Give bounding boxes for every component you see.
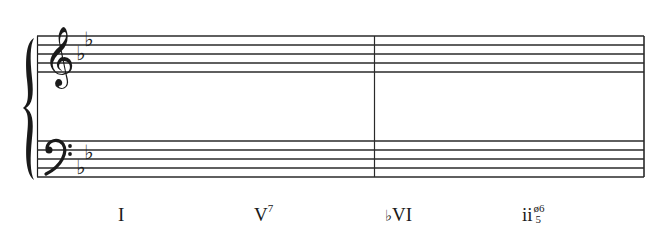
chord-label-3: ♭VI — [385, 204, 412, 226]
figured-bass: ø65 — [533, 204, 545, 224]
bass-clef-icon — [46, 141, 72, 174]
flat-icon: ♭ — [84, 140, 93, 164]
flat-icon: ♭ — [84, 27, 93, 51]
figure-superscript: 7 — [268, 202, 274, 214]
bass-key-signature: ♭ ♭ — [76, 140, 93, 179]
roman-numeral: VI — [392, 204, 412, 225]
roman-numeral: I — [118, 204, 124, 225]
treble-key-signature: ♭ ♭ — [76, 27, 93, 65]
treble-clef-icon: 𝄞 — [44, 21, 75, 89]
chord-label-4: iiø65 — [522, 204, 545, 226]
bass-staff — [37, 141, 644, 177]
roman-numeral: V — [254, 204, 268, 225]
treble-staff — [37, 36, 644, 72]
grand-staff: 𝄞 ♭ ♭ ♭ ♭ — [0, 0, 672, 243]
figure-bottom: 5 — [536, 213, 542, 225]
chord-label-2: V7 — [254, 204, 273, 226]
chord-label-1: I — [118, 204, 124, 226]
roman-numeral: ii — [522, 204, 533, 225]
brace-icon — [23, 38, 34, 180]
